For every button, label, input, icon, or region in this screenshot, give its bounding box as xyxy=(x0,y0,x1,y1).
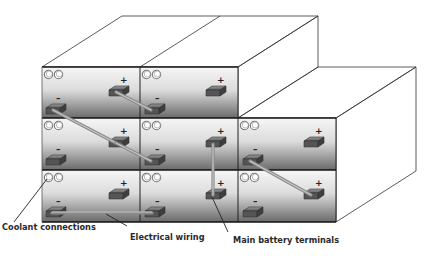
labels: Coolant connections Electrical wiring Ma… xyxy=(2,222,339,245)
minus-sign: – xyxy=(56,144,61,154)
minus-sign: – xyxy=(56,196,61,206)
coolant-connections-label: Coolant connections xyxy=(2,222,96,232)
plus-sign: + xyxy=(217,126,225,136)
plus-sign: + xyxy=(315,178,323,188)
plus-sign: + xyxy=(315,126,323,136)
minus-sign: – xyxy=(253,144,258,154)
battery-pack-diagram: + – + – + – + – + – + – + – + – xyxy=(0,0,426,258)
minus-sign: – xyxy=(56,93,61,103)
module-grid xyxy=(42,67,336,222)
plus-sign: + xyxy=(217,178,225,188)
plus-sign: + xyxy=(120,75,128,85)
minus-sign: – xyxy=(253,196,258,206)
col3-top-face xyxy=(238,67,416,118)
minus-sign: – xyxy=(155,144,160,154)
col3-side-face xyxy=(336,67,416,222)
minus-sign: – xyxy=(155,93,160,103)
electrical-wiring-label: Electrical wiring xyxy=(130,232,205,242)
cols12-side-face xyxy=(238,16,318,118)
plus-sign: + xyxy=(120,178,128,188)
plus-sign: + xyxy=(217,75,225,85)
main-battery-terminals-label: Main battery terminals xyxy=(233,235,339,245)
plus-sign: + xyxy=(120,126,128,136)
minus-sign: – xyxy=(155,196,160,206)
